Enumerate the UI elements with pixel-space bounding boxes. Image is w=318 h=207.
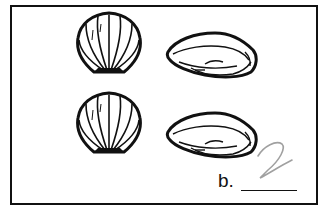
scallop-shell-icon (74, 10, 144, 76)
scallop-shell-icon (74, 90, 144, 156)
answer-blank-line[interactable] (241, 190, 297, 191)
handwritten-answer: 2 (250, 140, 300, 182)
item-label: b. (218, 170, 234, 192)
clam-shell-icon (165, 30, 259, 80)
clam-shell-icon (165, 110, 259, 160)
